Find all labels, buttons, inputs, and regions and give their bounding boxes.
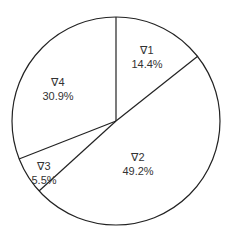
slice-label-v1: ∇1 14.4%: [122, 43, 172, 71]
pie-chart: [0, 0, 231, 238]
slice-name: ∇2: [113, 150, 163, 164]
slice-percent: 5.5%: [19, 173, 69, 187]
slice-name: ∇4: [33, 75, 83, 89]
slice-name: ∇1: [122, 43, 172, 57]
slice-label-v3: ∇3 5.5%: [19, 159, 69, 187]
slice-percent: 30.9%: [33, 89, 83, 103]
slice-name: ∇3: [19, 159, 69, 173]
slice-percent: 14.4%: [122, 57, 172, 71]
slice-percent: 49.2%: [113, 164, 163, 178]
slice-label-v2: ∇2 49.2%: [113, 150, 163, 178]
slice-label-v4: ∇4 30.9%: [33, 75, 83, 103]
